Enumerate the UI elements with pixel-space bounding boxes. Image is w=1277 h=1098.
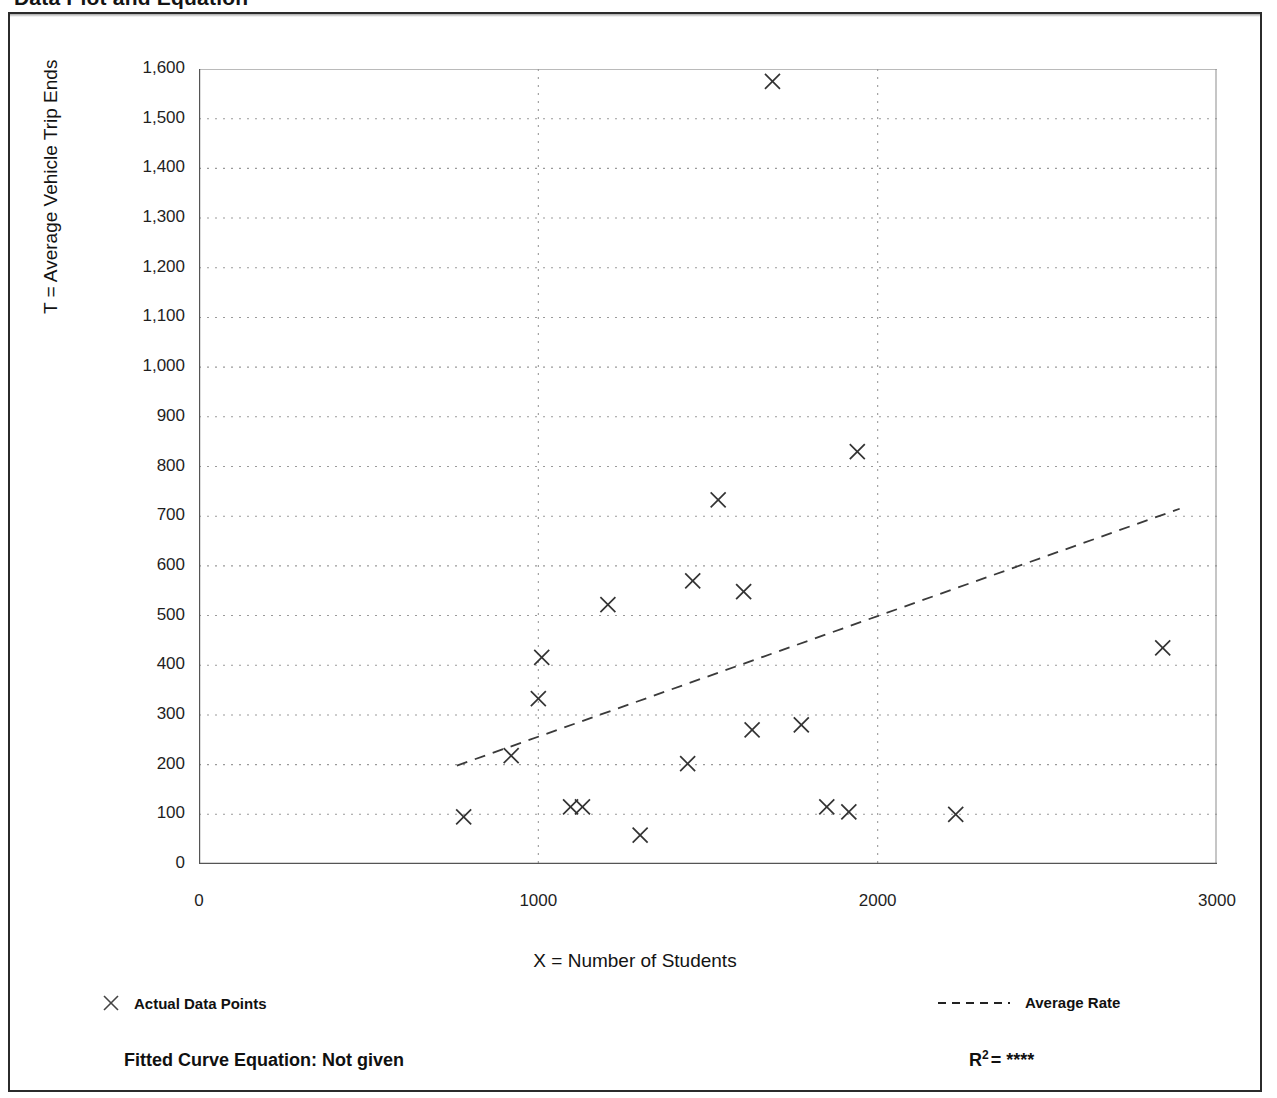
y-tick-label: 200 (99, 754, 185, 774)
y-tick-label: 300 (99, 704, 185, 724)
r-value: **** (1006, 1050, 1034, 1071)
y-tick-label: 1,000 (99, 356, 185, 376)
x-tick-label: 0 (154, 891, 244, 911)
x-tick-label: 2000 (833, 891, 923, 911)
y-tick-label: 1,300 (99, 207, 185, 227)
chart-frame: T = Average Vehicle Trip Ends 1,6001,500… (8, 12, 1262, 1092)
fitted-curve-equation: Fitted Curve Equation: Not given (124, 1050, 404, 1071)
y-tick-label: 100 (99, 803, 185, 823)
y-tick-label: 1,600 (99, 58, 185, 78)
legend-label-actual-data-points: Actual Data Points (134, 995, 267, 1012)
page-title: Data Plot and Equation (14, 0, 248, 10)
y-tick-label: 700 (99, 505, 185, 525)
y-tick-label: 400 (99, 654, 185, 674)
plot-area (199, 69, 1217, 864)
y-axis-title: T = Average Vehicle Trip Ends (40, 60, 62, 314)
x-tick-label: 1000 (493, 891, 583, 911)
x-axis-title: X = Number of Students (10, 950, 1260, 972)
r-equals: = (991, 1050, 1002, 1071)
y-tick-label: 0 (99, 853, 185, 873)
r-squared-value: R2=**** (969, 1050, 1034, 1071)
legend-item-actual-data-points: Actual Data Points (102, 994, 267, 1012)
y-tick-label: 900 (99, 406, 185, 426)
y-tick-label: 600 (99, 555, 185, 575)
scatter-plot (199, 69, 1217, 864)
y-tick-label: 1,500 (99, 108, 185, 128)
y-tick-label: 1,100 (99, 306, 185, 326)
y-tick-label: 1,400 (99, 157, 185, 177)
legend-item-average-rate: Average Rate (937, 994, 1120, 1011)
dashed-line-icon (937, 998, 1011, 1008)
chart-footer: Fitted Curve Equation: Not given R2=**** (10, 1050, 1260, 1084)
r-symbol: R (969, 1050, 982, 1071)
x-marker-icon (102, 994, 120, 1012)
chart-legend: Actual Data Points Average Rate (10, 994, 1260, 1020)
legend-label-average-rate: Average Rate (1025, 994, 1120, 1011)
y-tick-label: 800 (99, 456, 185, 476)
y-tick-label: 1,200 (99, 257, 185, 277)
x-tick-label: 3000 (1172, 891, 1262, 911)
y-tick-label: 500 (99, 605, 185, 625)
r-exponent: 2 (982, 1048, 989, 1062)
